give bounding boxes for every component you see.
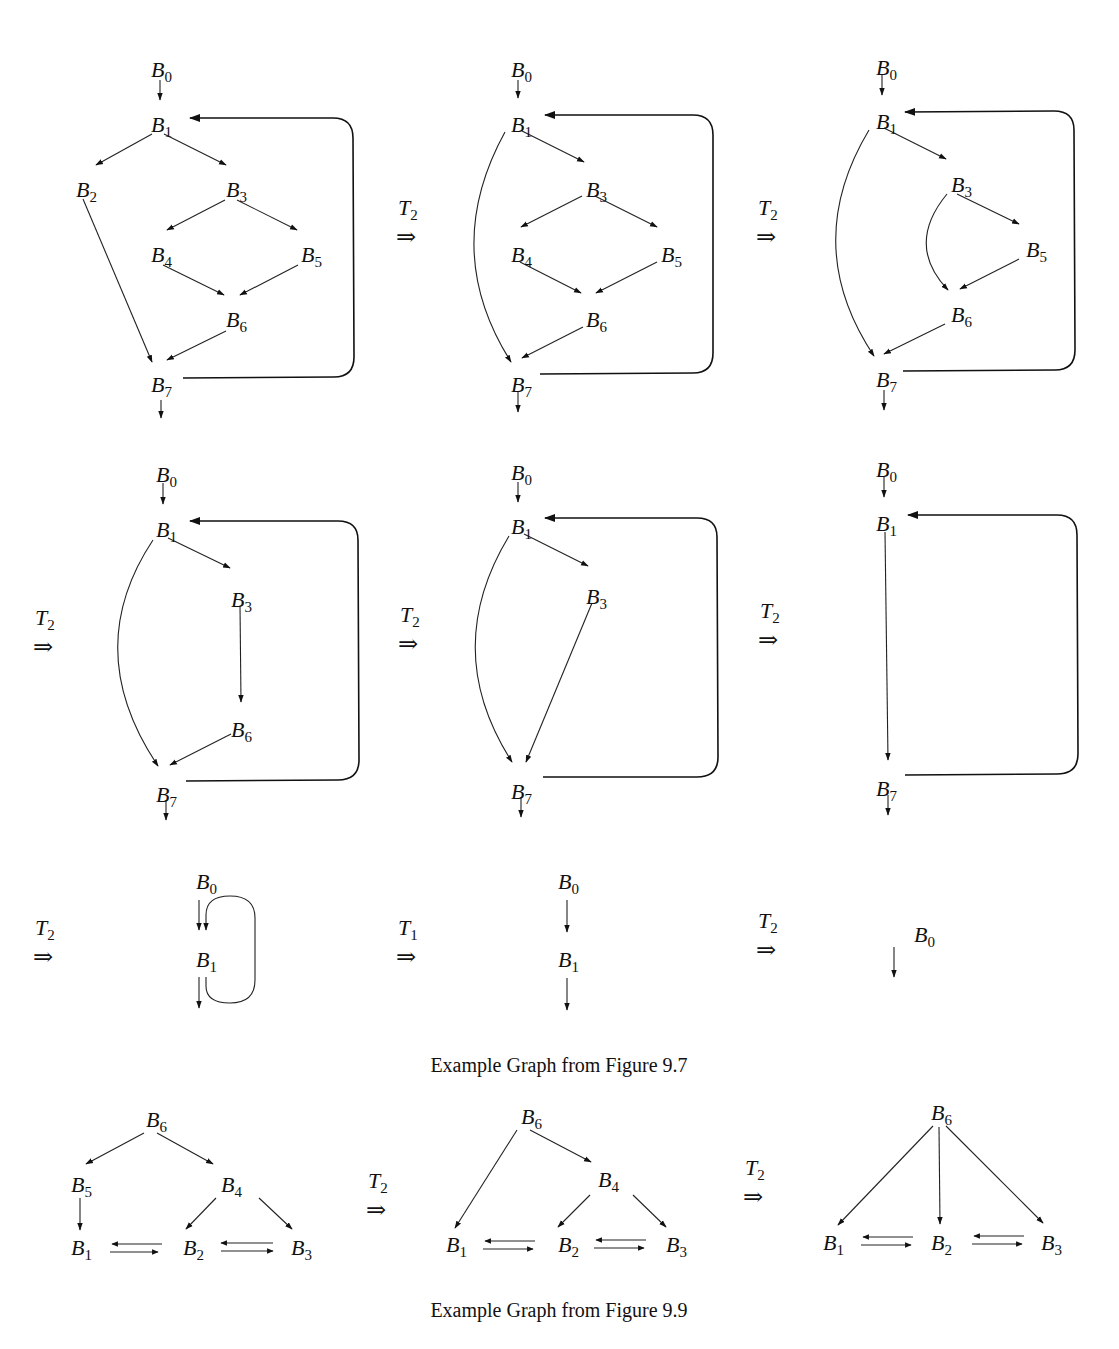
node-b1: B1 [876, 511, 897, 539]
node-b3: B3 [231, 587, 252, 615]
node-b6: B6 [951, 302, 972, 330]
transform-label-t2: T2 [35, 915, 55, 943]
node-b6: B6 [231, 717, 252, 745]
node-b4: B4 [151, 242, 172, 270]
panel-fig97-original: B0B1B2B3B4B5B6B7 [76, 57, 354, 418]
node-b0: B0 [156, 462, 177, 490]
implies-arrow-icon: ⇒ [743, 1183, 763, 1211]
self-loop-b1 [206, 896, 255, 1003]
implies-arrow-icon: ⇒ [758, 626, 778, 654]
node-b3: B3 [666, 1232, 687, 1260]
transform-label-t2: T2 [745, 1155, 765, 1183]
edge-b1-b2 [96, 134, 152, 165]
caption-figure-9-9: Example Graph from Figure 9.9 [430, 1299, 687, 1322]
edge-b1-b3 [164, 134, 226, 165]
panel-fig97-final: B0 [894, 922, 935, 977]
edge-b2-b7 [83, 199, 152, 362]
node-b3: B3 [586, 584, 607, 612]
flow-graph-reduction-figure: B0B1B2B3B4B5B6B7 B0B1B3B4B5B6B7 B0B1B3B5… [0, 0, 1119, 1349]
panel-fig97-step7: B0B1 [558, 869, 579, 1010]
node-b5: B5 [301, 242, 322, 270]
node-b0: B0 [876, 55, 897, 83]
node-b7: B7 [511, 372, 532, 400]
node-b1: B1 [558, 947, 579, 975]
node-b6: B6 [146, 1107, 167, 1135]
node-b3: B3 [291, 1235, 312, 1263]
transform-label-t1: T1 [398, 915, 418, 943]
panel-fig99-original: B6B5B4B1B2B3 [71, 1107, 312, 1263]
implies-arrow-icon: ⇒ [33, 633, 53, 661]
node-b5: B5 [661, 242, 682, 270]
transform-label-t2: T2 [400, 602, 420, 630]
node-b0: B0 [558, 869, 579, 897]
transform-label-t2: T2 [760, 598, 780, 626]
node-b4: B4 [221, 1172, 242, 1200]
edge-b6-b7 [167, 331, 226, 360]
node-b4: B4 [598, 1167, 619, 1195]
curve-edge-b3-b6 [926, 194, 948, 290]
node-b0: B0 [511, 57, 532, 85]
panel-fig97-step3: B0B1B3B6B7 [118, 462, 359, 820]
implies-arrow-icon: ⇒ [756, 936, 776, 964]
node-b1: B1 [446, 1232, 467, 1260]
transform-label-t2: T2 [398, 195, 418, 223]
node-b7: B7 [876, 776, 897, 804]
edge-b1-b7 [885, 532, 888, 760]
node-b3: B3 [1041, 1230, 1062, 1258]
panel-fig97-step2: B0B1B3B5B6B7 [836, 55, 1075, 410]
node-b1: B1 [156, 517, 177, 545]
node-b0: B0 [151, 57, 172, 85]
implies-arrow-icon: ⇒ [366, 1196, 386, 1224]
curve-edge-b1-b7 [474, 132, 511, 362]
node-b2: B2 [558, 1232, 579, 1260]
transform-label-t2: T2 [35, 605, 55, 633]
node-b1: B1 [876, 109, 897, 137]
panel-fig97-step1: B0B1B3B4B5B6B7 [474, 57, 713, 412]
node-b1: B1 [823, 1230, 844, 1258]
node-b2: B2 [76, 177, 97, 205]
node-b5: B5 [1026, 237, 1047, 265]
node-b1: B1 [511, 112, 532, 140]
node-b7: B7 [151, 372, 172, 400]
node-b0: B0 [914, 922, 935, 950]
node-b1: B1 [511, 514, 532, 542]
implies-arrow-icon: ⇒ [33, 943, 53, 971]
node-b1: B1 [71, 1235, 92, 1263]
caption-figure-9-7: Example Graph from Figure 9.7 [430, 1054, 687, 1077]
node-b4: B4 [511, 242, 532, 270]
implies-arrow-icon: ⇒ [396, 223, 416, 251]
node-b3: B3 [586, 177, 607, 205]
implies-arrow-icon: ⇒ [398, 630, 418, 658]
node-b0: B0 [511, 460, 532, 488]
node-b3: B3 [226, 177, 247, 205]
node-b7: B7 [511, 779, 532, 807]
transform-label-t2: T2 [758, 908, 778, 936]
node-b0: B0 [196, 869, 217, 897]
node-b5: B5 [71, 1172, 92, 1200]
implies-arrow-icon: ⇒ [396, 943, 416, 971]
transform-label-t2: T2 [368, 1168, 388, 1196]
panel-fig97-step6: B0B1 [196, 869, 255, 1008]
panel-fig99-step1: B6B4B1B2B3 [446, 1104, 687, 1260]
node-b6: B6 [931, 1100, 952, 1128]
node-b2: B2 [931, 1230, 952, 1258]
node-b0: B0 [876, 457, 897, 485]
node-b1: B1 [196, 947, 217, 975]
panel-fig99-step2: B6B1B2B3 [823, 1100, 1062, 1258]
panel-fig97-step4: B0B1B3B7 [475, 460, 718, 817]
node-b7: B7 [156, 782, 177, 810]
node-b1: B1 [151, 112, 172, 140]
implies-arrow-icon: ⇒ [756, 223, 776, 251]
node-b7: B7 [876, 367, 897, 395]
node-b6: B6 [226, 307, 247, 335]
node-b6: B6 [586, 307, 607, 335]
edge-b5-b6 [240, 265, 298, 295]
edge-b3-b4 [167, 200, 225, 230]
node-b2: B2 [183, 1235, 204, 1263]
transform-label-t2: T2 [758, 195, 778, 223]
panel-fig97-step5: B0B1B7 [876, 457, 1078, 815]
node-b6: B6 [521, 1104, 542, 1132]
node-b3: B3 [951, 172, 972, 200]
edge-b4-b6 [163, 265, 224, 295]
